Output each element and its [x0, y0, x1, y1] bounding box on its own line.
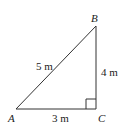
side-label-ab: 5 m [36, 60, 53, 72]
vertex-label-c: C [98, 112, 106, 124]
triangle-shape [16, 26, 96, 109]
right-angle-marker [86, 99, 96, 109]
vertex-label-a: A [7, 112, 15, 124]
vertex-label-b: B [91, 12, 98, 24]
side-label-bc: 4 m [101, 66, 118, 78]
triangle-diagram: B A C 5 m 4 m 3 m [0, 0, 125, 135]
side-label-ac: 3 m [52, 112, 69, 124]
